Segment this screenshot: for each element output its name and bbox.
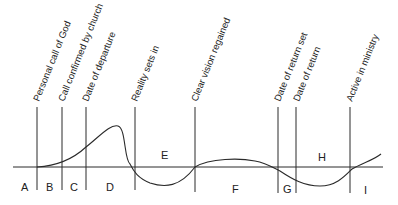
phase-labels: A B C D E F G H I <box>21 149 367 196</box>
phase-label-b: B <box>46 181 53 193</box>
phase-label-d: D <box>106 181 114 193</box>
phase-label-e: E <box>161 149 168 161</box>
phase-label-f: F <box>232 183 239 195</box>
phase-label-i: I <box>364 184 367 196</box>
phase-label-g: G <box>283 183 292 195</box>
milestone-labels: Personal call of God Call confirmed by c… <box>31 2 381 103</box>
milestone-label: Active in ministry <box>344 32 381 102</box>
phase-label-h: H <box>318 151 326 163</box>
emotion-curve <box>37 126 381 186</box>
phase-label-a: A <box>21 181 29 193</box>
milestone-label: Clear vision regained <box>189 16 233 103</box>
milestone-label: Reality sets in <box>129 44 161 103</box>
phase-label-c: C <box>70 181 78 193</box>
milestone-lines <box>37 107 350 193</box>
culture-shock-diagram: Personal call of God Call confirmed by c… <box>0 0 398 205</box>
